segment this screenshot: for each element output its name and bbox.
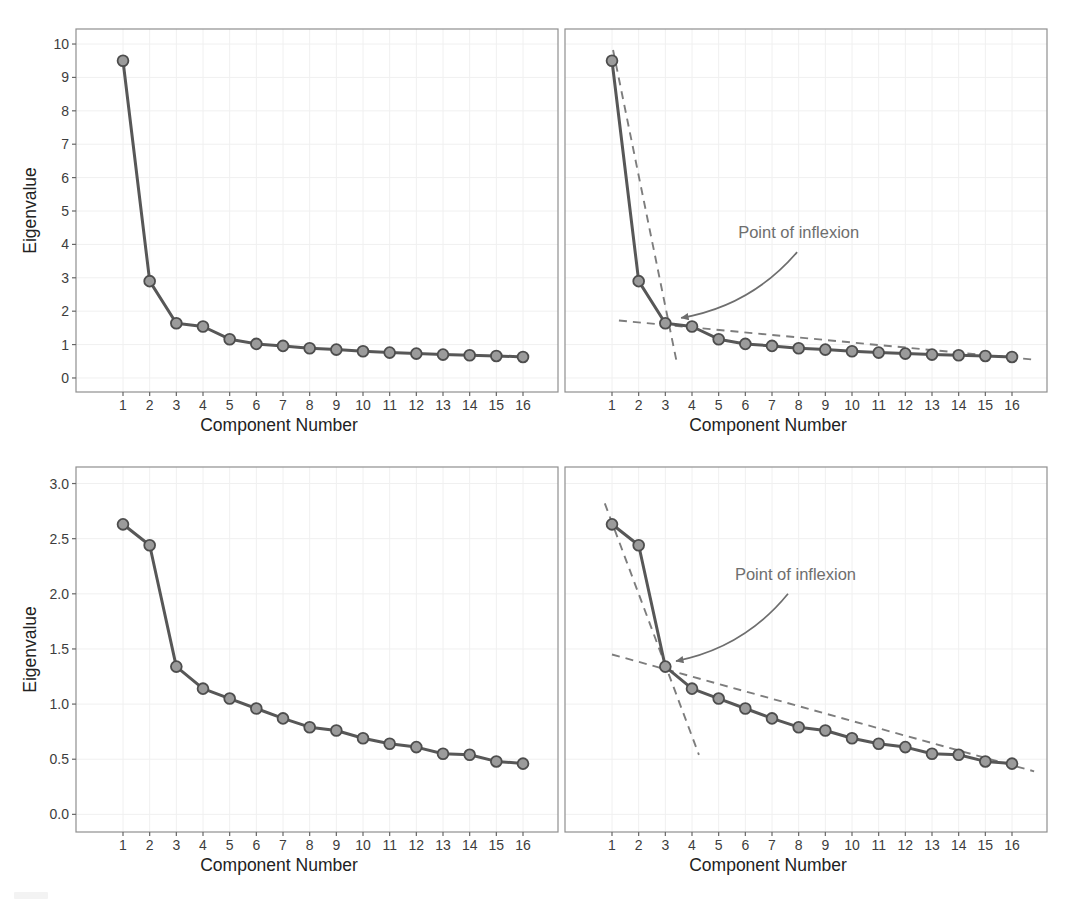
y-tick-label: 5: [61, 203, 69, 219]
x-tick-label: 6: [252, 837, 260, 853]
data-point: [331, 344, 342, 355]
panel-border: [76, 467, 558, 832]
x-tick-label: 14: [951, 397, 967, 413]
x-tick-label: 4: [688, 397, 696, 413]
x-tick-label: 11: [871, 837, 886, 853]
x-tick-label: 2: [635, 397, 643, 413]
x-tick-label: 6: [252, 397, 260, 413]
x-tick-label: 16: [1004, 837, 1020, 853]
scree-plot-figure: 12345678910111213141516012345678910Compo…: [0, 0, 1066, 904]
scree-plot-panel-top-right: 12345678910111213141516Point of inflexio…: [565, 29, 1047, 435]
data-point: [144, 540, 155, 551]
data-point: [847, 733, 858, 744]
inflexion-annotation: Point of inflexion: [681, 223, 859, 318]
data-point: [171, 661, 182, 672]
panel-border: [76, 29, 558, 392]
data-point: [278, 713, 289, 724]
data-point: [438, 349, 449, 360]
data-point: [278, 341, 289, 352]
scan-artifact: [14, 892, 48, 899]
data-point: [900, 348, 911, 359]
x-tick-label: 10: [844, 837, 860, 853]
y-tick-label: 7: [61, 136, 69, 152]
x-tick-label: 2: [635, 837, 643, 853]
x-axis: 12345678910111213141516: [608, 392, 1020, 413]
x-tick-label: 8: [795, 397, 803, 413]
annotation-text: Point of inflexion: [738, 223, 859, 241]
y-tick-label: 3.0: [50, 476, 70, 492]
scree-plot-panel-bottom-left: 123456789101112131415160.00.51.01.52.02.…: [20, 467, 558, 875]
x-axis-title: Component Number: [200, 855, 358, 875]
x-tick-label: 9: [332, 837, 340, 853]
y-tick-label: 2.5: [50, 531, 70, 547]
x-axis-title: Component Number: [689, 415, 847, 435]
x-tick-label: 7: [768, 837, 776, 853]
x-tick-label: 13: [435, 837, 451, 853]
data-point: [198, 683, 209, 694]
data-point: [251, 703, 262, 714]
x-tick-label: 1: [608, 837, 616, 853]
y-tick-label: 9: [61, 69, 69, 85]
x-tick-label: 12: [898, 837, 914, 853]
data-point: [927, 748, 938, 759]
x-tick-label: 9: [821, 837, 829, 853]
x-tick-label: 2: [146, 837, 154, 853]
x-tick-label: 9: [821, 397, 829, 413]
dashed-guide-line: [612, 654, 1034, 771]
data-point: [118, 519, 129, 530]
data-point: [900, 742, 911, 753]
dashed-guide-line: [605, 503, 699, 754]
data-point: [491, 756, 502, 767]
y-tick-label: 1: [61, 337, 69, 353]
data-point: [633, 276, 644, 287]
y-tick-label: 0.5: [50, 751, 70, 767]
gridlines: [565, 467, 1047, 832]
data-point: [820, 344, 831, 355]
x-tick-label: 1: [608, 397, 616, 413]
x-tick-label: 15: [489, 837, 505, 853]
x-tick-label: 8: [306, 397, 314, 413]
data-point: [793, 343, 804, 354]
x-tick-label: 4: [199, 837, 207, 853]
eigenvalue-line: [612, 524, 1012, 763]
data-point: [767, 341, 778, 352]
data-point: [953, 350, 964, 361]
x-tick-label: 10: [355, 837, 371, 853]
x-axis: 12345678910111213141516: [119, 392, 531, 413]
data-point: [953, 749, 964, 760]
data-point: [171, 318, 182, 329]
data-point: [660, 661, 671, 672]
data-point: [464, 350, 475, 361]
data-point: [518, 352, 529, 363]
data-point: [873, 347, 884, 358]
data-point: [491, 351, 502, 362]
x-tick-label: 11: [382, 837, 397, 853]
data-point: [740, 703, 751, 714]
data-point: [331, 725, 342, 736]
x-tick-label: 1: [119, 397, 127, 413]
x-tick-label: 12: [898, 397, 914, 413]
x-tick-label: 10: [844, 397, 860, 413]
x-tick-label: 7: [279, 837, 287, 853]
data-point: [740, 339, 751, 350]
scree-plot-panel-bottom-right: 12345678910111213141516Point of inflexio…: [565, 467, 1047, 875]
data-point: [793, 722, 804, 733]
x-tick-label: 14: [462, 837, 478, 853]
data-point: [118, 55, 129, 66]
data-point: [607, 519, 618, 530]
annotation-arrow: [676, 594, 788, 661]
x-tick-label: 5: [715, 837, 723, 853]
eigenvalue-line: [123, 61, 523, 357]
x-tick-label: 15: [489, 397, 505, 413]
data-point: [1007, 352, 1018, 363]
x-tick-label: 12: [409, 837, 425, 853]
y-tick-label: 10: [53, 36, 69, 52]
scree-plot-svg: 12345678910111213141516012345678910Compo…: [0, 0, 1066, 904]
x-axis: 12345678910111213141516: [119, 832, 531, 853]
x-tick-label: 7: [279, 397, 287, 413]
data-point: [687, 683, 698, 694]
eigenvalue-line: [612, 61, 1012, 357]
scree-plot-panel-top-left: 12345678910111213141516012345678910Compo…: [20, 29, 558, 435]
y-tick-label: 1.5: [50, 641, 70, 657]
data-point: [873, 738, 884, 749]
